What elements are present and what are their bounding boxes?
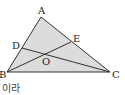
label-o: O [42,56,50,67]
triangle-abc [7,17,110,72]
label-c: C [112,69,120,80]
label-b: B [0,69,6,80]
label-e: E [73,33,80,44]
label-a: A [37,5,46,16]
label-d: D [12,40,20,51]
caption-text: 이라 [2,83,20,95]
geometry-figure: A B C D E O [0,0,125,95]
